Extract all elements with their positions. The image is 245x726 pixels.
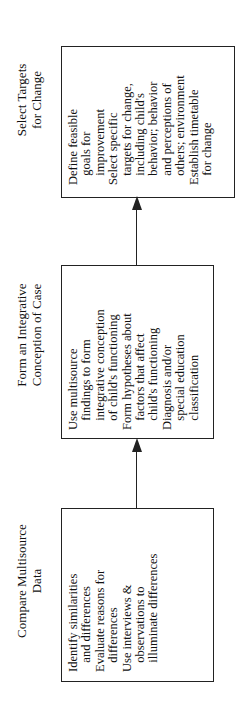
stage-box-compare-data: Identify similarities and differences Ev… bbox=[61, 508, 214, 682]
stage-box-integrative-conception: Use multisource findings to form integra… bbox=[61, 265, 214, 439]
connector-line bbox=[136, 448, 137, 508]
stage-body-integrative-conception: Use multisource findings to form integra… bbox=[67, 309, 201, 430]
stage-title-integrative-conception: Form an Integrative Conception of Case bbox=[14, 260, 44, 410]
arrow-up-icon bbox=[132, 196, 142, 210]
arrow-up-icon bbox=[132, 438, 142, 452]
stage-title-select-targets: Select Targets for Change bbox=[14, 40, 44, 160]
stage-body-select-targets: Define feasible goals for improvement Se… bbox=[67, 75, 214, 185]
stage-title-compare-data: Compare Multisource Data bbox=[14, 506, 44, 656]
stage-box-select-targets: Define feasible goals for improvement Se… bbox=[61, 46, 235, 198]
connector-line bbox=[136, 205, 137, 265]
stage-body-compare-data: Identify similarities and differences Ev… bbox=[67, 554, 161, 672]
